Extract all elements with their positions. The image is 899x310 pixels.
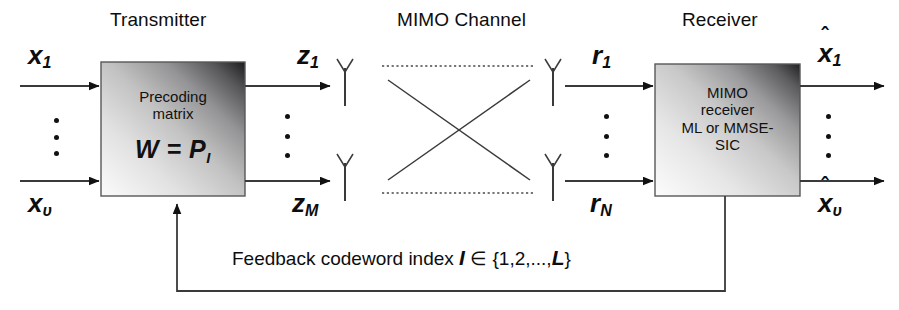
antenna-icon-rx-n [545, 154, 561, 201]
output-label-xhatv: ˆx υ [818, 190, 842, 219]
transmitter-block-label: Precoding matrix [101, 88, 245, 123]
output-xhatv-sub: υ [832, 202, 841, 219]
mimo-precoding-block-diagram: Transmitter MIMO Channel Receiver x1 xυ … [0, 0, 899, 310]
receiver-input-arrows [565, 86, 653, 181]
transmitter-formula-main: W = P [135, 135, 206, 163]
tx-output-vertical-ellipsis [285, 114, 290, 158]
title-receiver: Receiver [682, 10, 758, 29]
antenna-icon-tx-1 [337, 59, 353, 106]
rx-signal-label-r1: r1 [592, 42, 611, 71]
feedback-label: Feedback codeword index I ∈ {1,2,...,L} [232, 247, 571, 268]
output-xhat1-sub: 1 [832, 52, 841, 69]
antenna-icon-tx-m [337, 154, 353, 201]
tx-zm-sub: M [305, 202, 318, 219]
feedback-label-set: ∈ {1,2,..., [465, 248, 552, 269]
input-x1-base: x [28, 40, 42, 70]
rx-r1-sub: 1 [602, 54, 611, 71]
output-xhat1-hat: ˆ [821, 26, 828, 47]
receiver-block-label: MIMO receiver ML or MMSE- SIC [655, 84, 800, 154]
input-xv-sub: υ [42, 202, 51, 219]
rx-signal-label-rn: rN [590, 190, 612, 219]
receiver-line-2: receiver [655, 101, 800, 118]
transmitter-input-arrows [20, 86, 99, 181]
rx-rn-sub: N [600, 202, 612, 219]
transmitter-line-2: matrix [101, 105, 245, 122]
output-xhatv-hat: ˆ [821, 176, 828, 197]
mimo-channel-paths [382, 66, 535, 193]
tx-signal-label-z1: z1 [297, 42, 319, 71]
transmitter-line-1: Precoding [101, 88, 245, 105]
transmitter-formula-sub: I [206, 149, 211, 166]
tx-z1-base: z [297, 40, 310, 70]
input-label-x1: x1 [28, 42, 51, 71]
tx-z1-sub: 1 [310, 54, 319, 71]
output-xhatv-base-wrap: ˆx [818, 190, 832, 216]
input-label-xv: xυ [28, 190, 52, 219]
input-x1-sub: 1 [42, 54, 51, 71]
antenna-icon-rx-1 [545, 59, 561, 106]
output-label-xhat1: ˆx 1 [818, 40, 841, 69]
rx-input-vertical-ellipsis [604, 114, 609, 158]
rx-rn-base: r [590, 188, 600, 218]
title-transmitter: Transmitter [110, 10, 206, 29]
transmitter-block-fill [101, 62, 245, 196]
transmitter-formula: W = PI [101, 135, 245, 166]
output-vertical-ellipsis [826, 114, 831, 158]
title-channel: MIMO Channel [397, 10, 526, 29]
output-xhat1-base-wrap: ˆx [818, 40, 832, 66]
feedback-path [177, 196, 725, 291]
feedback-label-close: } [564, 248, 570, 269]
receiver-line-1: MIMO [655, 84, 800, 101]
rx-r1-base: r [592, 40, 602, 70]
receiver-line-3: ML or MMSE- [655, 119, 800, 136]
receiver-output-arrows [800, 86, 884, 181]
input-vertical-ellipsis [54, 118, 59, 156]
feedback-label-limit: L [552, 246, 565, 269]
receiver-line-4: SIC [655, 136, 800, 153]
input-xv-base: x [28, 188, 42, 218]
tx-signal-label-zm: zM [292, 190, 318, 219]
feedback-label-text: Feedback codeword index [232, 248, 459, 269]
tx-zm-base: z [292, 188, 305, 218]
